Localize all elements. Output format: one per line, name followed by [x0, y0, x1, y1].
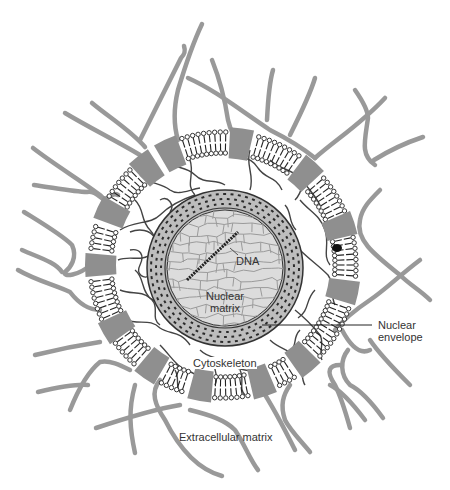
membrane-protein — [85, 253, 116, 277]
membrane-marker — [332, 244, 342, 252]
label-extracellular-matrix: Extracellular matrix — [179, 431, 273, 443]
membrane-protein — [187, 368, 213, 402]
membrane-protein — [93, 196, 130, 228]
membrane-protein — [229, 127, 254, 161]
label-nuclear-envelope-line2: envelope — [378, 331, 423, 343]
cell-structure-diagram — [0, 0, 450, 490]
label-nuclear-envelope: Nuclear envelope — [378, 319, 423, 343]
nucleus — [147, 190, 303, 346]
label-nuclear-envelope-line1: Nuclear — [378, 319, 423, 331]
membrane-protein — [287, 155, 324, 192]
label-nuclear-matrix: Nuclear matrix — [195, 290, 255, 314]
membrane-protein — [134, 347, 169, 385]
membrane-protein — [284, 341, 320, 378]
membrane-protein — [129, 149, 165, 186]
label-dna: DNA — [236, 255, 259, 267]
label-cytoskeleton: Cytoskeleton — [193, 357, 257, 369]
label-nuclear-matrix-line2: matrix — [195, 302, 255, 314]
label-nuclear-matrix-line1: Nuclear — [195, 290, 255, 302]
